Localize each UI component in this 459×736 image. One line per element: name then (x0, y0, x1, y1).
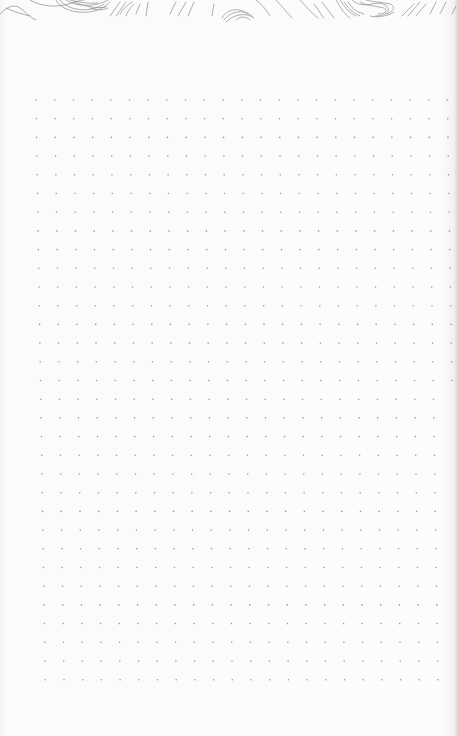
notebook-page (0, 0, 459, 736)
page-edge-shadow (453, 0, 459, 736)
dot-grid (0, 0, 459, 736)
